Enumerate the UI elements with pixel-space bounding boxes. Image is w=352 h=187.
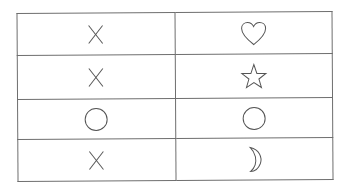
table-row bbox=[17, 12, 332, 56]
x-icon bbox=[82, 145, 112, 175]
symbol-table bbox=[16, 11, 333, 182]
table-row bbox=[18, 98, 333, 140]
table-cell bbox=[17, 13, 175, 56]
symbol-table-sheet bbox=[16, 11, 333, 178]
x-icon bbox=[81, 19, 111, 49]
star-icon bbox=[239, 61, 269, 91]
circle-icon bbox=[81, 104, 111, 134]
x-icon bbox=[81, 62, 111, 92]
heart-icon bbox=[238, 18, 268, 48]
table-row bbox=[17, 54, 332, 100]
table-cell bbox=[18, 98, 176, 139]
table-cell bbox=[174, 12, 332, 55]
table-cell bbox=[17, 55, 175, 100]
table-cell bbox=[175, 138, 333, 181]
table-row bbox=[18, 138, 333, 182]
table-cell bbox=[18, 138, 176, 181]
crescent-moon-icon bbox=[239, 144, 269, 174]
table-cell bbox=[175, 54, 333, 99]
table-cell bbox=[175, 98, 333, 139]
circle-icon bbox=[239, 103, 269, 133]
